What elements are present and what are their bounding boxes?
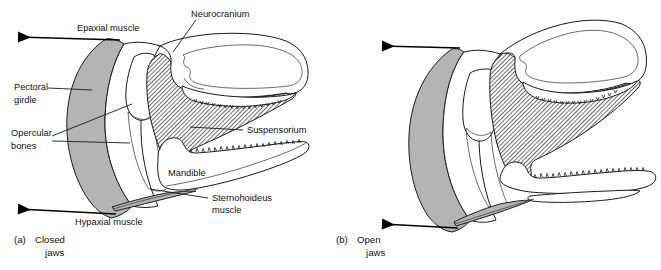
- figure-canvas: Epaxial muscle Neurocranium Pectoral gir…: [0, 0, 661, 270]
- panel-a-caption-line2: jaws: [44, 247, 64, 258]
- panel-b-caption-prefix: (b): [336, 234, 348, 245]
- label-neurocranium: Neurocranium: [191, 9, 250, 19]
- label-opercular-bones-line2: bones: [11, 141, 37, 151]
- panel-a-caption-line1: Closed: [35, 234, 65, 245]
- panel-b-caption-line1: Open: [357, 234, 380, 245]
- label-opercular-bones-line1: Opercular: [11, 128, 52, 138]
- label-sternohoideus-line1: Sternohoideus: [212, 193, 272, 203]
- label-suspensorium: Suspensorium: [247, 125, 307, 135]
- label-pectoral-girdle-line2: girdle: [14, 95, 37, 105]
- mandible-shape: [500, 162, 656, 194]
- label-pectoral-girdle-line1: Pectoral: [14, 82, 48, 92]
- label-epaxial-muscle: Epaxial muscle: [77, 23, 140, 33]
- panel-a-closed-jaws: Epaxial muscle Neurocranium Pectoral gir…: [11, 9, 309, 258]
- panel-a-caption-prefix: (a): [14, 234, 26, 245]
- epaxial-arrow: [382, 46, 460, 48]
- label-sternohoideus-line2: muscle: [212, 205, 241, 215]
- panel-b-open-jaws: (b) Open jaws: [336, 20, 656, 258]
- label-mandible: Mandible: [168, 168, 206, 178]
- neurocranium-outline: [500, 20, 647, 93]
- panel-b-caption-line2: jaws: [365, 247, 385, 258]
- epaxial-arrow: [18, 37, 120, 40]
- label-hypaxial-muscle: Hypaxial muscle: [75, 217, 143, 227]
